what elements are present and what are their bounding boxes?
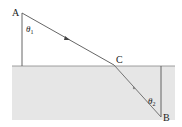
label-c: C [116, 54, 123, 65]
label-b: B [163, 112, 170, 123]
label-a: A [12, 7, 20, 18]
lower-medium [12, 66, 175, 120]
ray-marker [133, 87, 135, 89]
refraction-diagram: A C B θ1 θ2 [0, 0, 182, 127]
arrow-icon [64, 36, 70, 40]
theta1-label: θ1 [26, 24, 33, 35]
